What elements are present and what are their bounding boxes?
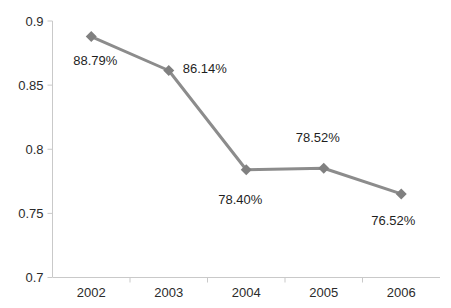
data-point-marker	[86, 31, 97, 42]
data-point-value-label: 78.52%	[296, 131, 340, 144]
y-axis-tick-label: 0.8	[0, 143, 44, 156]
data-point-marker	[396, 188, 407, 199]
data-point-value-label: 76.52%	[371, 214, 415, 227]
x-axis-tick-label: 2003	[130, 286, 208, 299]
x-axis-tick-label: 2006	[363, 286, 441, 299]
y-axis-tick-label: 0.7	[0, 271, 44, 284]
chart-canvas	[0, 0, 451, 308]
x-axis-tick-label: 2002	[53, 286, 131, 299]
y-axis-tick-label: 0.75	[0, 207, 44, 220]
x-axis-tick-label: 2004	[208, 286, 286, 299]
line-chart: 0.90.850.80.750.7 20022003200420052006 8…	[0, 0, 451, 308]
data-point-value-label: 86.14%	[183, 62, 227, 75]
data-point-value-label: 88.79%	[73, 54, 117, 67]
data-point-marker	[318, 163, 329, 174]
data-point-value-label: 78.40%	[218, 193, 262, 206]
x-axis-tick-label: 2005	[285, 286, 363, 299]
y-axis-tick-label: 0.85	[0, 79, 44, 92]
y-axis-ticks	[48, 21, 53, 278]
y-axis-tick-label: 0.9	[0, 15, 44, 28]
x-axis-ticks	[130, 278, 363, 283]
